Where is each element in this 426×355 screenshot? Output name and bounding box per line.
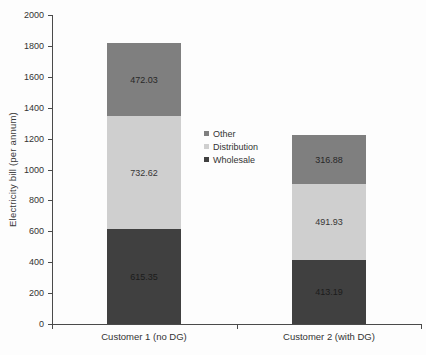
y-tick-label: 1800 (10, 42, 44, 51)
legend-entry-distribution: Distribution (204, 140, 258, 153)
bar-segment-other: 316.88 (292, 135, 366, 184)
stacked-bar-chart: Electricity bill (per annum) OtherDistri… (0, 0, 426, 355)
legend-label: Wholesale (213, 155, 255, 165)
y-tick-mark (48, 293, 52, 294)
bar-segment-distribution: 732.62 (107, 116, 181, 229)
bar-segment-distribution: 491.93 (292, 184, 366, 260)
legend-marker-icon (204, 131, 209, 136)
y-tick-label: 200 (10, 289, 44, 298)
y-tick-label: 0 (10, 320, 44, 329)
y-tick-mark (48, 170, 52, 171)
bar-segment-wholesale: 413.19 (292, 260, 366, 324)
x-tick-mark (421, 325, 422, 329)
legend-entry-other: Other (204, 127, 258, 140)
y-tick-mark (48, 15, 52, 16)
y-tick-mark (48, 108, 52, 109)
y-tick-mark (48, 139, 52, 140)
legend-marker-icon (204, 157, 209, 162)
legend-entry-wholesale: Wholesale (204, 153, 258, 166)
y-tick-mark (48, 46, 52, 47)
legend: OtherDistributionWholesale (204, 127, 258, 166)
data-label: 472.03 (130, 75, 158, 85)
bar-segment-wholesale: 615.35 (107, 229, 181, 324)
data-label: 413.19 (315, 287, 343, 297)
data-label: 316.88 (315, 155, 343, 165)
legend-label: Other (213, 129, 236, 139)
y-tick-mark (48, 231, 52, 232)
x-category-label: Customer 1 (no DG) (64, 331, 224, 342)
y-axis-line (52, 15, 53, 324)
y-tick-label: 400 (10, 258, 44, 267)
x-tick-mark (52, 325, 53, 329)
y-tick-label: 2000 (10, 11, 44, 20)
x-tick-mark (237, 325, 238, 329)
y-tick-label: 1000 (10, 166, 44, 175)
data-label: 615.35 (130, 272, 158, 282)
y-tick-mark (48, 77, 52, 78)
y-tick-label: 600 (10, 227, 44, 236)
legend-marker-icon (204, 144, 209, 149)
data-label: 491.93 (315, 217, 343, 227)
y-tick-mark (48, 262, 52, 263)
legend-label: Distribution (213, 142, 258, 152)
x-category-label: Customer 2 (with DG) (249, 331, 409, 342)
y-tick-mark (48, 200, 52, 201)
y-tick-label: 1200 (10, 135, 44, 144)
data-label: 732.62 (130, 168, 158, 178)
y-tick-label: 1600 (10, 73, 44, 82)
bar-segment-other: 472.03 (107, 43, 181, 116)
y-tick-label: 1400 (10, 104, 44, 113)
y-tick-label: 800 (10, 196, 44, 205)
